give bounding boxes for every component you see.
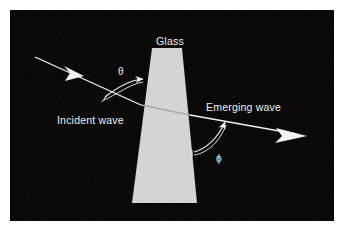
emerging-ray-arrowhead <box>275 128 307 143</box>
incident-ray-arrowhead <box>64 66 84 81</box>
glass-label: Glass <box>156 35 184 47</box>
theta-angle-label: θ <box>118 66 124 77</box>
emerging-wave-label: Emerging wave <box>206 101 281 113</box>
incident-ray-line <box>35 57 141 105</box>
glass-slab-shape <box>132 48 197 203</box>
diagram-canvas: Glass Incident wave Emerging wave θ ϕ <box>10 10 334 221</box>
phi-angle-label: ϕ <box>216 153 222 164</box>
refraction-diagram-figure: Glass Incident wave Emerging wave θ ϕ <box>0 0 344 231</box>
incident-wave-label: Incident wave <box>57 114 124 126</box>
theta-angle-arc <box>105 79 143 97</box>
